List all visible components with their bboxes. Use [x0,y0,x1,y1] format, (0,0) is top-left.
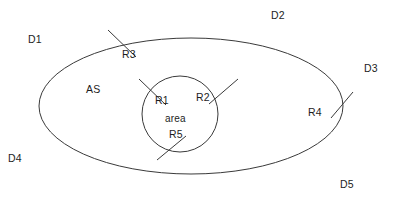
label-r4: R4 [308,106,322,118]
label-r5: R5 [169,128,183,140]
label-d1: D1 [28,33,42,45]
label-area: area [165,113,186,125]
label-d4: D4 [8,152,22,164]
label-r2: R2 [196,91,210,103]
outer-ellipse-as [39,38,343,174]
label-d2: D2 [271,9,285,21]
diagram-canvas: D1 D2 D3 D4 D5 AS R3 R4 R1 R2 R5 area [0,0,393,205]
label-r1: R1 [155,94,169,106]
label-d5: D5 [340,178,354,190]
label-d3: D3 [364,62,378,74]
label-r3: R3 [122,48,136,60]
leader-line-r2 [209,79,238,104]
label-as: AS [86,83,100,95]
